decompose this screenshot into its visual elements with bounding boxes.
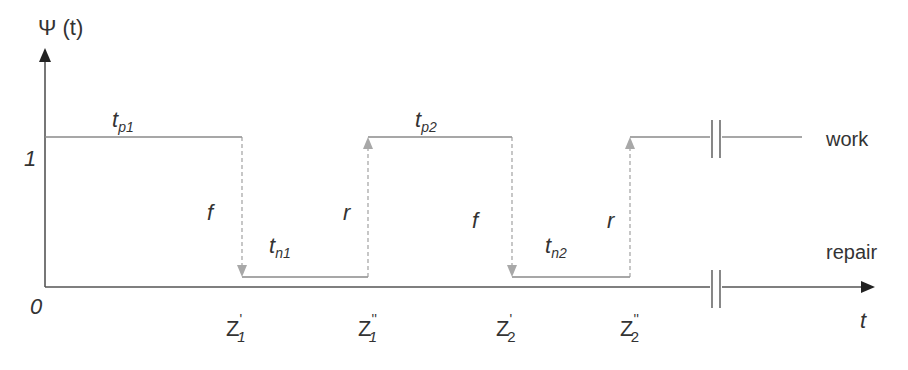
failure-label-2: f [472, 208, 481, 233]
failure-transition-1 [237, 137, 247, 277]
repair-state-label: repair [826, 241, 877, 263]
duration-tn1: tn1 [269, 233, 291, 261]
time-mark-z1-prime: Z'1 [226, 311, 245, 345]
y-axis-arrow-icon [39, 48, 51, 62]
up-arrow-icon [363, 137, 373, 149]
x-axis-arrow-icon [861, 281, 875, 293]
time-mark-z2-prime: Z'2 [496, 311, 515, 345]
level-one-label: 1 [24, 146, 36, 171]
x-axis-label: t [860, 308, 867, 333]
repair-label-1: r [343, 200, 352, 225]
time-mark-z2-double-prime: Z''2 [620, 311, 639, 345]
down-arrow-icon [237, 265, 247, 277]
repair-transition-1 [363, 137, 373, 277]
duration-tp2: tp2 [415, 107, 437, 135]
level-zero-label: 0 [30, 294, 43, 319]
work-state-label: work [825, 128, 869, 150]
x-axis [45, 270, 875, 308]
failure-transition-2 [507, 137, 517, 277]
up-arrow-icon [625, 137, 635, 149]
repair-label-2: r [607, 208, 616, 233]
reliability-state-diagram: Ψ (t) t 1 0 work repair tp1 tp2 tn1 tn2 … [0, 0, 908, 370]
time-mark-z1-double-prime: Z''1 [358, 311, 377, 345]
down-arrow-icon [507, 265, 517, 277]
duration-tn2: tn2 [545, 233, 567, 261]
failure-label-1: f [207, 200, 216, 225]
duration-tp1: tp1 [112, 107, 134, 135]
y-axis [39, 48, 51, 287]
signal-path [45, 137, 802, 277]
repair-transition-2 [625, 137, 635, 277]
y-axis-label: Ψ (t) [38, 15, 83, 40]
